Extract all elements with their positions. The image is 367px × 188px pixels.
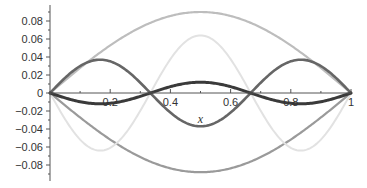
y-tick-label: −0.06: [15, 141, 43, 153]
axes: 0.20.40.60.81 0.080.060.040.020−0.02−0.0…: [15, 5, 354, 181]
x-ticks: 0.20.40.60.81: [80, 89, 354, 108]
y-tick-label: −0.02: [15, 105, 43, 117]
x-tick-label: 0.2: [103, 96, 118, 108]
x-tick-label: 0.8: [283, 96, 298, 108]
x-tick-label: 0.6: [223, 96, 238, 108]
x-tick-label: 0.4: [163, 96, 178, 108]
y-ticks: 0.080.060.040.020−0.02−0.04−0.06−0.08: [15, 12, 50, 174]
y-tick-label: 0.02: [22, 69, 43, 81]
y-tick-label: 0.08: [22, 15, 43, 27]
y-tick-label: 0.04: [22, 51, 43, 63]
y-tick-label: −0.04: [15, 123, 43, 135]
y-tick-label: 0.06: [22, 33, 43, 45]
x-tick-label: 1: [348, 96, 354, 108]
y-tick-label: −0.08: [15, 159, 43, 171]
y-tick-label: 0: [37, 87, 43, 99]
line-chart: 0.20.40.60.81 0.080.060.040.020−0.02−0.0…: [0, 0, 367, 188]
x-axis-label: x: [197, 112, 204, 126]
